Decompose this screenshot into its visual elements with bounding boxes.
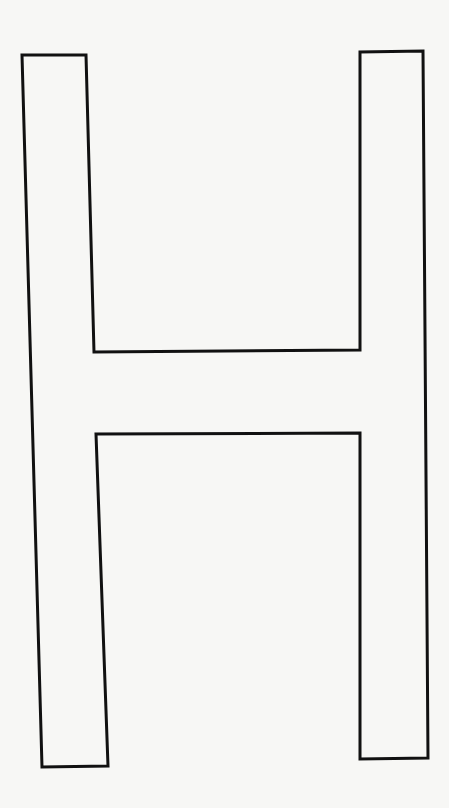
scanned-page [0, 0, 449, 808]
letter-h-shape [22, 51, 428, 767]
letter-h-outline [0, 0, 449, 808]
